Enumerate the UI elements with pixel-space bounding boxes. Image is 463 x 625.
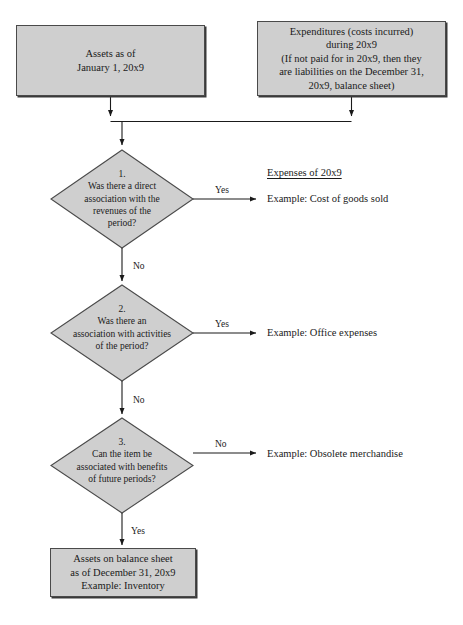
node-assets-as-of-january: Assets as of January 1, 20x9 — [16, 25, 205, 96]
decision-2-diamond — [51, 285, 193, 381]
node-assets-on-balance-sheet-text: Assets on balance sheet as of December 3… — [64, 552, 181, 592]
node-assets-as-of-january-text: Assets as of January 1, 20x9 — [71, 47, 150, 74]
outcome-example-cost-of-goods-sold: Example: Cost of goods sold — [267, 194, 388, 205]
decision-3-diamond — [51, 418, 193, 513]
node-expenditures-during-year: Expenditures (costs incurred) during 20x… — [257, 21, 446, 96]
node-assets-on-balance-sheet: Assets on balance sheet as of December 3… — [50, 548, 196, 597]
outcome-heading-expenses: Expenses of 20x9 — [267, 168, 342, 179]
outcome-example-office-expenses: Example: Office expenses — [267, 328, 377, 339]
outcome-example-obsolete-merchandise: Example: Obsolete merchandise — [267, 449, 403, 460]
flowchart-diagram: Assets as of January 1, 20x9 Expenditure… — [0, 0, 463, 625]
decision-1-diamond — [51, 150, 193, 248]
node-expenditures-during-year-text: Expenditures (costs incurred) during 20x… — [273, 25, 430, 92]
